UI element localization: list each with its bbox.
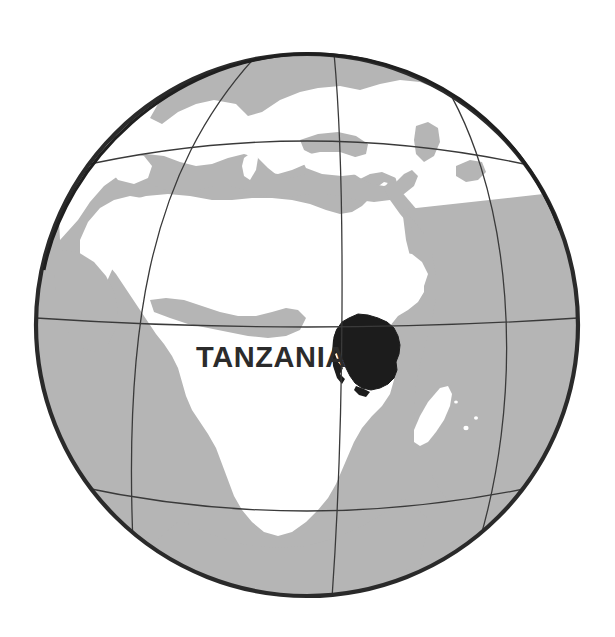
island-dot-4 [334,408,339,412]
globe-graphic [0,0,615,637]
island-dot-2 [474,416,478,419]
island-dot-3 [454,400,458,403]
country-label-tanzania: TANZANIA [196,342,347,373]
locator-map-figure: TANZANIA [0,0,615,637]
island-dot-1 [463,426,468,430]
island-dot-6 [402,274,406,278]
island-dot-5 [243,226,248,230]
